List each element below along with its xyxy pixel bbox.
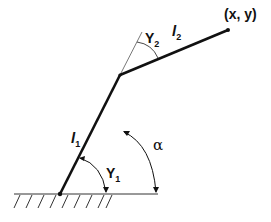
gamma2-label: Y2 [145, 30, 159, 46]
alpha-label: α [153, 136, 163, 154]
gamma1-subscript: 1 [115, 174, 120, 184]
base-joint [58, 192, 62, 196]
link1-subscript: 1 [75, 139, 80, 149]
end-effector-label: (x, y) [224, 6, 257, 22]
gamma1-symbol: Y [106, 165, 115, 181]
gamma1-arc [80, 158, 106, 192]
ground-hatching [14, 195, 112, 208]
gamma1-arrowhead-bottom [103, 187, 109, 193]
gamma2-symbol: Y [145, 30, 154, 46]
gamma1-label: Y1 [106, 165, 120, 181]
gamma2-subscript: 2 [154, 39, 159, 49]
elbow-joint [118, 73, 121, 76]
link2-subscript: 2 [176, 32, 181, 42]
alpha-arc [124, 132, 156, 192]
link2-label: l2 [172, 22, 181, 39]
end-effector-point [226, 28, 230, 32]
alpha-arrowhead-bottom [153, 187, 159, 193]
robot-arm-diagram: (x, y) l2 Y2 l1 Y1 α [0, 0, 271, 222]
diagram-graphics [0, 0, 271, 222]
link1-label: l1 [71, 129, 80, 146]
